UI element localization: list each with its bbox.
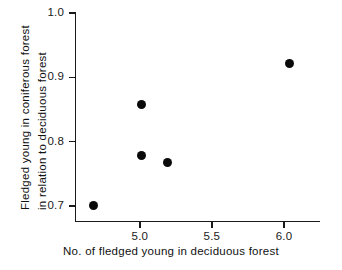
- x-tick-mark: [211, 222, 212, 228]
- y-tick-mark: [69, 205, 76, 206]
- x-tick-mark: [139, 222, 140, 228]
- y-axis-line: [75, 13, 76, 222]
- y-tick-mark: [69, 141, 76, 142]
- y-tick-mark: [69, 77, 76, 78]
- x-tick-label: 5.5: [204, 230, 221, 242]
- x-axis-label: No. of fledged young in deciduous forest: [0, 245, 342, 257]
- y-axis-label-line-2: in relation to deciduous forest: [36, 52, 48, 210]
- x-tick-mark: [283, 222, 284, 228]
- x-tick-label: 6.0: [276, 230, 293, 242]
- data-point: [137, 100, 146, 109]
- y-tick-mark: [69, 12, 76, 13]
- y-axis-label: Fledged young in coniferous forest in re…: [0, 0, 52, 222]
- data-point: [163, 158, 172, 167]
- y-axis-label-line-1: Fledged young in coniferous forest: [19, 25, 31, 210]
- data-point: [137, 151, 146, 160]
- data-point: [89, 201, 98, 210]
- scatter-chart-figure: 0.70.80.91.0 5.05.56.0 Fledged young in …: [0, 0, 342, 270]
- x-tick-label: 5.0: [132, 230, 149, 242]
- data-point: [285, 59, 294, 68]
